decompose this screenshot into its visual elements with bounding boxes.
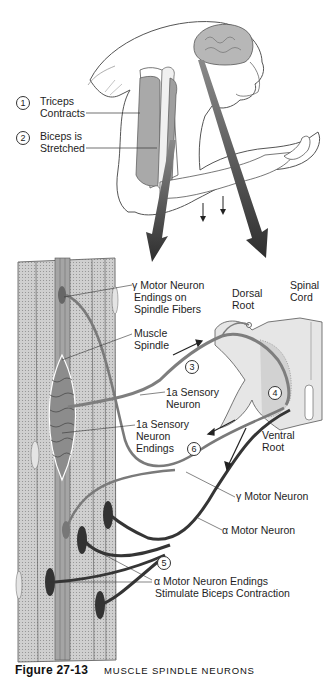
biceps-label-line2: Stretched: [40, 143, 85, 155]
sensory-endings-label-line3: Endings: [136, 443, 174, 455]
step-1-badge: 1: [16, 96, 30, 110]
down-arrow-icon: [200, 203, 206, 222]
gamma-endings-label-line2: Endings on: [134, 292, 187, 304]
alpha-endings-label-line1: α Motor Neuron Endings: [154, 576, 268, 588]
alpha-endings-label-line2: Stimulate Biceps Contraction: [155, 588, 290, 600]
triceps-label-line2: Contracts: [40, 108, 85, 120]
figure-caption: Figure 27-13MUSCLE SPINDLE NEURONS: [15, 663, 255, 677]
step-5-badge: 5: [157, 556, 171, 570]
sensory-endings-label-line1: 1a Sensory: [136, 419, 189, 431]
gamma-endings-label-line3: Spindle Fibers: [134, 304, 201, 316]
dorsal-root-label-line2: Root: [232, 300, 254, 312]
biceps-label-line1: Biceps is: [40, 131, 82, 143]
ventral-root-label-line1: Ventral: [262, 430, 295, 442]
muscle-spindle-label-line2: Spindle: [134, 340, 169, 352]
sensory-neuron-label-line1: 1a Sensory: [166, 387, 219, 399]
monkey-illustration: [88, 22, 320, 215]
step-4-badge: 4: [268, 386, 282, 400]
ventral-root-label-line2: Root: [262, 442, 284, 454]
spinal-cord-label-line1: Spinal: [290, 280, 319, 292]
spinal-cord-label-line2: Cord: [290, 292, 313, 304]
alpha-motor-neuron-label: α Motor Neuron: [222, 525, 295, 537]
step-2-badge: 2: [16, 131, 30, 145]
step-3-badge: 3: [185, 360, 199, 374]
down-arrow-icon: [220, 196, 226, 215]
sensory-neuron-label-line2: Neuron: [166, 399, 200, 411]
triceps-label-line1: Triceps: [40, 96, 74, 108]
muscle-spindle-label-line1: Muscle: [134, 328, 167, 340]
sensory-endings-label-line2: Neuron: [136, 431, 170, 443]
gamma-endings-label-line1: γ Motor Neuron: [132, 280, 204, 292]
dorsal-root-label-line1: Dorsal: [232, 288, 262, 300]
gamma-motor-neuron-label: γ Motor Neuron: [236, 491, 308, 503]
figure-caption-label: Figure 27-13: [15, 663, 88, 677]
figure-caption-title: MUSCLE SPINDLE NEURONS: [104, 665, 255, 676]
step-6-badge: 6: [187, 442, 201, 456]
